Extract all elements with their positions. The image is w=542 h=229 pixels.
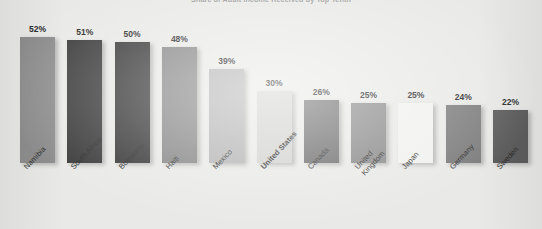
category-axis: NamibiaSouth AfricaBotswanaHaitiMexicoUn… bbox=[0, 163, 542, 229]
bar-group: 50% bbox=[115, 0, 150, 163]
bar-group: 39% bbox=[209, 0, 244, 163]
bar bbox=[20, 37, 55, 163]
bar-group: 26% bbox=[304, 0, 339, 163]
bar-value-label: 26% bbox=[313, 87, 330, 97]
chart-title: Share of Adult Income Received by Top Te… bbox=[0, 0, 542, 4]
bar-value-label: 50% bbox=[124, 29, 141, 39]
bar-value-label: 52% bbox=[29, 24, 46, 34]
bar-value-label: 24% bbox=[455, 92, 472, 102]
bar-value-label: 22% bbox=[502, 97, 519, 107]
bar-value-label: 25% bbox=[360, 90, 377, 100]
bar-value-label: 48% bbox=[171, 34, 188, 44]
bar-value-label: 30% bbox=[265, 78, 282, 88]
bar-group: 25% bbox=[398, 0, 433, 163]
bar-value-label: 39% bbox=[218, 56, 235, 66]
bar-group: 25% bbox=[351, 0, 386, 163]
bar-value-label: 25% bbox=[407, 90, 424, 100]
bar-value-label: 51% bbox=[76, 27, 93, 37]
bar-chart: Share of Adult Income Received by Top Te… bbox=[0, 0, 542, 229]
bar-group: 52% bbox=[20, 0, 55, 163]
bar-group: 22% bbox=[493, 0, 528, 163]
bar-group: 24% bbox=[446, 0, 481, 163]
plot-area: 52%51%50%48%39%30%26%25%25%24%22% bbox=[0, 0, 542, 163]
bar-group: 48% bbox=[162, 0, 197, 163]
bar bbox=[162, 47, 197, 163]
